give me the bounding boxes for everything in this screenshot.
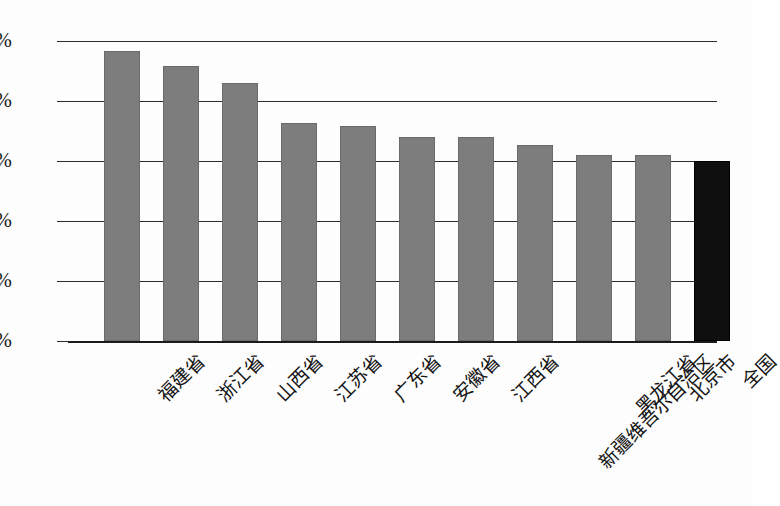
x-axis-tick-label-text: 新疆维吾尔自治区 [594,351,716,473]
bar [104,51,140,341]
bars-layer [68,41,717,341]
y-axis-tick-label: 0.50% [0,270,12,291]
x-axis-tick-label: 江西省 [507,351,562,406]
bar [399,137,435,341]
x-axis-tick-label: 浙江省 [212,351,267,406]
bar [635,155,671,341]
bar [694,161,730,341]
bar [163,66,199,341]
bar [576,155,612,341]
x-axis-tick-label-text: 江西省 [507,351,562,406]
x-axis-tick-label: 广东省 [389,351,444,406]
x-axis-tick-label-text: 福建省 [153,351,208,406]
x-axis-tick-label: 山西省 [271,351,326,406]
bar [517,145,553,341]
x-axis-tick-label: 全国 [738,351,780,393]
bar [281,123,317,341]
x-axis-labels: 福建省浙江省山西省江苏省广东省安徽省江西省新疆维吾尔自治区黑龙江省北京市全国 [68,341,717,506]
x-axis-tick-label-text: 浙江省 [212,351,267,406]
y-axis-tick-label: 1.00% [0,210,12,231]
bar [458,137,494,341]
x-axis-tick-label: 安徽省 [448,351,503,406]
y-axis-tick-label: 0.00% [0,330,12,351]
x-axis-tick-label-text: 江苏省 [330,351,385,406]
x-axis-tick-label-text: 广东省 [389,351,444,406]
x-axis-tick-label-text: 安徽省 [448,351,503,406]
y-axis-tick-label: 2.50% [0,30,12,51]
x-axis-tick-label-text: 全国 [738,351,780,393]
y-axis-tick-label: 2.00% [0,90,12,111]
x-axis-tick-label: 新疆维吾尔自治区 [594,351,716,473]
x-axis-tick-label-text: 山西省 [271,351,326,406]
x-axis-tick-label: 江苏省 [330,351,385,406]
y-axis-tick-label: 1.50% [0,150,12,171]
bar [222,83,258,341]
bar [340,126,376,341]
x-axis-tick-label: 福建省 [153,351,208,406]
